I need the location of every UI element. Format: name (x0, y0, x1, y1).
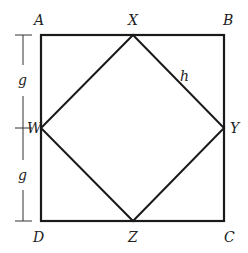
vertex-label-a: A (32, 12, 44, 28)
vertex-label-w: W (27, 120, 43, 136)
dimension-label-g-top: g (18, 72, 27, 88)
vertex-label-c: C (224, 229, 235, 245)
vertex-label-z: Z (127, 229, 138, 245)
dimension-label-g-bottom: g (18, 167, 27, 183)
outer-square-abcd (41, 35, 224, 221)
geometry-diagram: A X B W Y D Z C h g g (0, 0, 248, 253)
edge-label-h: h (180, 68, 189, 84)
vertex-label-y: Y (230, 120, 241, 136)
vertex-label-b: B (222, 12, 233, 28)
inner-square-wxyz (41, 35, 224, 221)
vertex-label-d: D (32, 229, 44, 245)
vertex-label-x: X (127, 12, 139, 28)
